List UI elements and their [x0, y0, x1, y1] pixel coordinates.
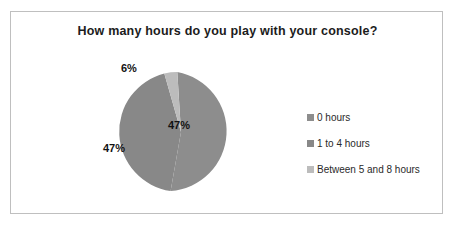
pie-label-between-5-and-8-hours: 6%: [121, 62, 137, 74]
legend-label-between-5-and-8-hours: Between 5 and 8 hours: [317, 164, 420, 175]
legend-item-1-to-4-hours[interactable]: 1 to 4 hours: [307, 132, 447, 154]
legend-swatch-icon-between-5-and-8-hours: [307, 166, 314, 173]
chart-legend: 0 hours 1 to 4 hours Between 5 and 8 hou…: [307, 106, 447, 184]
chart-frame: How many hours do you play with your con…: [10, 11, 443, 214]
legend-swatch-icon-1-to-4-hours: [307, 140, 314, 147]
pie-plot-area: 6% 47% 47% 0 hours 1 to 4 hours Between …: [11, 12, 444, 215]
pie-chart: [91, 64, 235, 198]
legend-label-0-hours: 0 hours: [317, 112, 350, 123]
legend-swatch-icon-0-hours: [307, 114, 314, 121]
legend-item-0-hours[interactable]: 0 hours: [307, 106, 447, 128]
legend-item-between-5-and-8-hours[interactable]: Between 5 and 8 hours: [307, 158, 447, 180]
pie-label-1-to-4-hours: 47%: [103, 142, 125, 154]
pie-label-0-hours: 47%: [168, 119, 190, 131]
legend-label-1-to-4-hours: 1 to 4 hours: [317, 138, 370, 149]
